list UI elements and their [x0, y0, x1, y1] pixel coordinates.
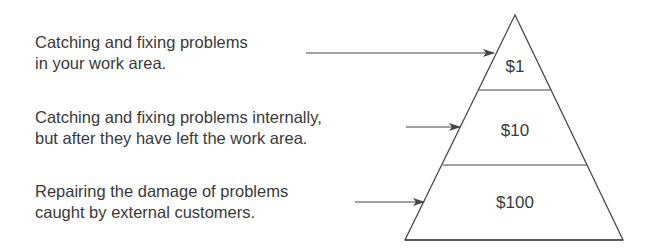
pyramid-diagram: $1 $10 $100 [0, 0, 654, 250]
tier-cost-1: $1 [506, 57, 525, 76]
tier-cost-2: $10 [501, 121, 529, 140]
tier-cost-3: $100 [496, 193, 534, 212]
